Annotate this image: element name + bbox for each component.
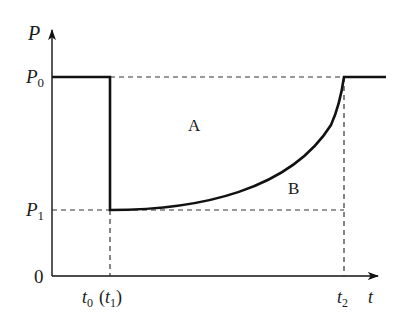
pressure-curve <box>52 77 386 210</box>
p0-label: P0 <box>25 66 44 90</box>
y-axis-label: P <box>27 22 40 44</box>
t2-label: t2 <box>337 287 348 310</box>
pressure-time-diagram: P P0 P1 0 t0(t1) t2 t A B <box>0 0 405 322</box>
region-b-label: B <box>288 179 299 198</box>
p1-label: P1 <box>25 199 44 223</box>
origin-label: 0 <box>34 266 44 287</box>
region-a-label: A <box>188 116 201 135</box>
x-axis-label: t <box>368 287 374 307</box>
t0-t1-label: t0(t1) <box>82 287 122 310</box>
